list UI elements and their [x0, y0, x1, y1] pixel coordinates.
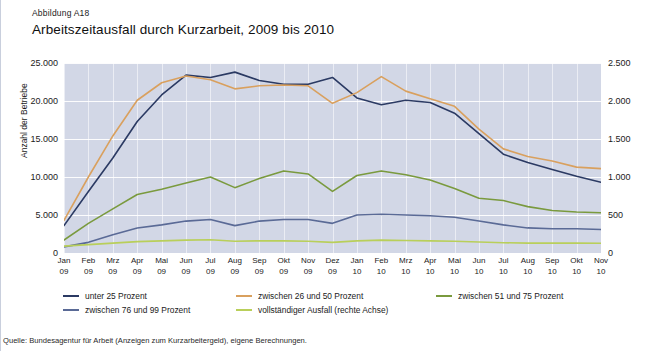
series-lines — [64, 63, 601, 253]
y2-axis-tick-label: 500 — [608, 210, 623, 220]
y-axis-tick-label: 10.000 — [30, 172, 58, 182]
x-axis-tick-label: Nov10 — [581, 256, 621, 277]
series-line — [64, 171, 601, 240]
legend-item-label: zwischen 26 und 50 Prozent — [258, 291, 363, 301]
legend-item-vollstaendiger-ausfall[interactable]: vollständiger Ausfall (rechte Achse) — [236, 305, 436, 315]
y2-axis-tick-label: 1.500 — [608, 134, 631, 144]
legend-item-label: unter 25 Prozent — [85, 291, 147, 301]
legend-swatch-icon — [63, 295, 79, 297]
legend-item-label: zwischen 76 und 99 Prozent — [85, 305, 190, 315]
legend-swatch-icon — [436, 295, 452, 297]
y-axis-tick-label: 25.000 — [30, 58, 58, 68]
legend-item-zwischen-76-und-99-prozent[interactable]: zwischen 76 und 99 Prozent — [63, 305, 236, 315]
series-line — [64, 76, 601, 220]
legend-swatch-icon — [236, 295, 252, 297]
y2-axis-tick-label: 1.000 — [608, 172, 631, 182]
gridline-vertical — [601, 63, 602, 253]
legend-swatch-icon — [236, 309, 252, 311]
gridline-horizontal — [64, 253, 601, 254]
plot-area — [64, 63, 601, 253]
figure-title: Arbeitszeitausfall durch Kurzarbeit, 200… — [32, 22, 334, 37]
y2-axis-tick-label: 2.000 — [608, 96, 631, 106]
legend-swatch-icon — [63, 309, 79, 311]
chart-legend: unter 25 Prozent zwischen 26 und 50 Proz… — [63, 291, 623, 319]
series-line — [64, 240, 601, 246]
legend-item-label: vollständiger Ausfall (rechte Achse) — [258, 305, 388, 315]
source-note: Quelle: Bundesagentur für Arbeit (Anzeig… — [3, 336, 307, 345]
y-axis-tick-label: 5.000 — [35, 210, 58, 220]
legend-row: zwischen 76 und 99 Prozent vollständiger… — [63, 305, 623, 315]
legend-item-unter-25-prozent[interactable]: unter 25 Prozent — [63, 291, 236, 301]
y-axis-title: Anzahl der Betriebe — [19, 83, 29, 158]
legend-item-zwischen-51-und-75-prozent[interactable]: zwischen 51 und 75 Prozent — [436, 291, 616, 301]
figure-container: Abbildung A18 Arbeitszeitausfall durch K… — [0, 0, 665, 351]
legend-item-label: zwischen 51 und 75 Prozent — [458, 291, 563, 301]
legend-row: unter 25 Prozent zwischen 26 und 50 Proz… — [63, 291, 623, 301]
figure-number-label: Abbildung A18 — [32, 8, 89, 18]
y-axis-tick-label: 20.000 — [30, 96, 58, 106]
y2-axis-tick-label: 2.500 — [608, 58, 631, 68]
legend-item-zwischen-26-und-50-prozent[interactable]: zwischen 26 und 50 Prozent — [236, 291, 436, 301]
y-axis-tick-label: 15.000 — [30, 134, 58, 144]
